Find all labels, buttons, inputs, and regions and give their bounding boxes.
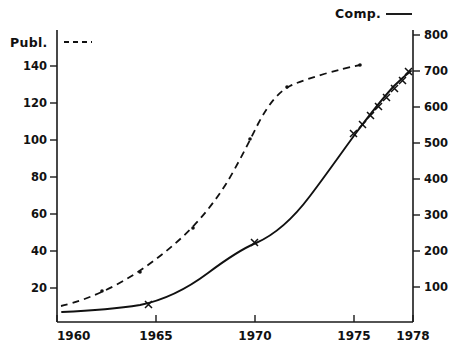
x-tick-label-1975: 1975 [337, 329, 370, 343]
left-tick-label-60: 60 [31, 207, 47, 221]
series-comp-point [359, 121, 366, 128]
left-tick-label-20: 20 [31, 281, 47, 295]
series-comp-line [62, 71, 411, 312]
right-axis-group: 800 700 600 500 400 300 200 100 [413, 28, 448, 322]
left-tick-label-100: 100 [23, 133, 47, 147]
right-tick-label-300: 300 [424, 208, 448, 222]
x-tick-label-1965: 1965 [139, 329, 172, 343]
right-tick-label-800: 800 [424, 28, 448, 42]
series-comp-markers [145, 68, 412, 308]
series-publ-point [191, 226, 195, 230]
left-axis-group: 140 120 100 80 60 40 20 [23, 30, 57, 322]
right-tick-label-600: 600 [424, 100, 448, 114]
series-publ-line [61, 65, 360, 306]
dual-axis-line-chart: 140 120 100 80 60 40 20 Publ. 800 70 [0, 0, 459, 363]
right-tick-label-100: 100 [424, 280, 448, 294]
series-comp-group [62, 68, 412, 312]
series-publ-point [358, 63, 362, 67]
left-axis-legend-group: Publ. [10, 35, 92, 50]
right-axis-legend-group: Comp. [335, 6, 412, 21]
series-publ-point [100, 289, 104, 293]
x-tick-label-1978: 1978 [396, 329, 429, 343]
left-tick-label-140: 140 [23, 59, 47, 73]
series-publ-point [138, 270, 142, 274]
x-tick-label-1960: 1960 [57, 329, 90, 343]
chart-container: 140 120 100 80 60 40 20 Publ. 800 70 [0, 0, 459, 363]
right-tick-label-700: 700 [424, 64, 448, 78]
right-tick-label-200: 200 [424, 244, 448, 258]
series-publ-point [248, 137, 252, 141]
x-axis-group: 1960 1965 1970 1975 1978 [57, 315, 430, 343]
left-axis-title: Publ. [10, 35, 48, 50]
right-tick-label-500: 500 [424, 136, 448, 150]
left-tick-label-80: 80 [31, 170, 47, 184]
left-tick-label-120: 120 [23, 96, 47, 110]
x-tick-label-1970: 1970 [238, 329, 271, 343]
right-axis-title: Comp. [335, 6, 381, 21]
series-publ-point [285, 85, 289, 89]
left-tick-label-40: 40 [31, 244, 47, 258]
right-tick-label-400: 400 [424, 172, 448, 186]
